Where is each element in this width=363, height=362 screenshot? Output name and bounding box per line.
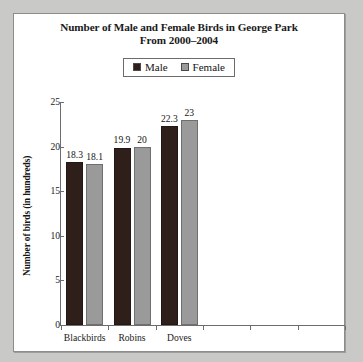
x-tick-mark <box>203 326 204 330</box>
value-label: 19.9 <box>114 134 131 145</box>
category-label: Robins <box>118 332 145 343</box>
y-tick-label: 10 <box>38 230 60 241</box>
y-axis-title: Number of birds (in hundreds) <box>22 126 36 306</box>
x-tick-mark <box>156 326 157 330</box>
category-label: Doves <box>167 332 192 343</box>
plot-area: Number of birds (in hundreds) 2520151050… <box>14 14 346 353</box>
value-label: 23 <box>185 107 195 118</box>
y-tick-label: 15 <box>38 185 60 196</box>
y-tick-label: 25 <box>38 96 60 107</box>
value-label: 18.1 <box>86 151 103 162</box>
bar-blackbirds-male <box>66 162 83 325</box>
value-label: 20 <box>137 134 147 145</box>
value-label: 22.3 <box>161 113 178 124</box>
value-label: 18.3 <box>66 149 83 160</box>
bar-robins-male <box>114 148 131 326</box>
x-tick-mark <box>345 326 346 330</box>
bar-doves-female <box>181 120 198 325</box>
x-tick-mark <box>61 326 62 330</box>
bars-layer: 18.318.119.92022.323 <box>61 102 345 325</box>
bar-blackbirds-female <box>86 164 103 325</box>
category-label: Blackbirds <box>64 332 106 343</box>
x-tick-mark <box>298 326 299 330</box>
scanned-page-panel: Number of Male and Female Birds in Georg… <box>13 13 345 352</box>
bar-doves-male <box>161 126 178 325</box>
bar-robins-female <box>134 147 151 325</box>
y-tick-label: 0 <box>38 319 60 330</box>
x-tick-mark <box>250 326 251 330</box>
x-tick-mark <box>108 326 109 330</box>
y-tick-label: 5 <box>38 274 60 285</box>
y-tick-label: 20 <box>38 141 60 152</box>
